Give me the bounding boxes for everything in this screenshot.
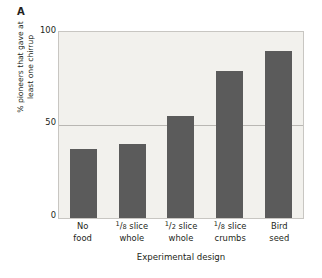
fraction: 1/8 — [214, 221, 225, 231]
x-tick-label-line2: seed — [255, 233, 303, 245]
x-tick-label-line1: Bird — [271, 221, 288, 231]
x-tick-label-line1: 1/2 slice — [165, 221, 198, 231]
y-axis-ticks: 100 50 0 — [16, 0, 56, 240]
bar — [265, 51, 292, 218]
fraction: 1/2 — [165, 221, 176, 231]
x-tick-label-line1: 1/8 slice — [115, 221, 148, 231]
x-tick-label-line2: food — [59, 233, 107, 245]
x-tick-label-line2: whole — [157, 233, 205, 245]
fraction: 1/8 — [115, 221, 126, 231]
x-tick-label: 1/8 slicecrumbs — [206, 221, 254, 244]
bar — [70, 149, 97, 218]
x-tick-label-line1: No — [77, 221, 88, 231]
x-tick-label: Birdseed — [255, 221, 303, 244]
plot-area — [58, 31, 304, 219]
bar — [216, 71, 243, 218]
x-axis-title: Experimental design — [58, 252, 304, 263]
bar-series — [59, 32, 303, 218]
x-tick-label: Nofood — [59, 221, 107, 244]
y-tick-label-50: 50 — [18, 118, 56, 127]
x-axis-tick-labels: Nofood1/8 slicewhole1/2 slicewhole1/8 sl… — [58, 221, 304, 244]
bar — [119, 144, 146, 218]
y-tick-label-100: 100 — [18, 26, 56, 35]
bar — [167, 116, 194, 218]
figure-panel-a: A % pioneers that gave at least one chir… — [0, 0, 322, 278]
x-tick-label-line2: whole — [108, 233, 156, 245]
x-tick-label-line2: crumbs — [206, 233, 254, 245]
x-tick-label: 1/8 slicewhole — [108, 221, 156, 244]
x-tick-label-line1: 1/8 slice — [214, 221, 247, 231]
y-tick-label-0: 0 — [18, 211, 56, 220]
x-tick-label: 1/2 slicewhole — [157, 221, 205, 244]
